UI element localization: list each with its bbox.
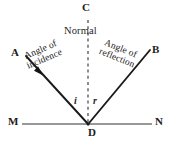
ray-diagram-canvas — [0, 0, 174, 145]
label-mirror-left-end-m: M — [8, 116, 18, 127]
reflection-diagram: C Normal Angle of incidence Angle of ref… — [0, 0, 174, 145]
label-incident-ray-end-a: A — [11, 47, 19, 58]
point-of-incidence-marker — [87, 123, 89, 125]
label-angle-reflection-symbol: r — [93, 96, 97, 106]
label-mirror-right-end-n: N — [155, 116, 163, 127]
label-angle-incidence-symbol: i — [74, 96, 77, 106]
label-normal-caption: Normal — [64, 26, 97, 37]
label-point-of-incidence-d: D — [88, 127, 96, 138]
label-normal-point-c: C — [82, 2, 90, 13]
label-reflected-ray-end-b: B — [152, 44, 159, 55]
